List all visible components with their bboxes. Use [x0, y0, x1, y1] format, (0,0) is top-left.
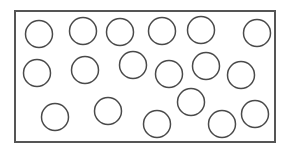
circle-6 [244, 20, 271, 47]
circle-12 [228, 62, 255, 89]
circle-9 [120, 52, 147, 79]
circle-13 [42, 104, 69, 131]
circle-15 [144, 111, 171, 138]
circle-4 [149, 18, 176, 45]
circle-17 [209, 111, 236, 138]
circle-5 [188, 17, 215, 44]
circle-8 [72, 57, 99, 84]
circle-18 [242, 101, 269, 128]
diagram-canvas [0, 0, 283, 146]
circle-7 [24, 60, 51, 87]
circle-10 [156, 61, 183, 88]
circle-16 [178, 89, 205, 116]
circle-2 [70, 18, 97, 45]
circle-3 [107, 19, 134, 46]
circle-1 [26, 21, 53, 48]
circle-group [24, 17, 271, 138]
circle-11 [193, 53, 220, 80]
circle-14 [95, 98, 122, 125]
